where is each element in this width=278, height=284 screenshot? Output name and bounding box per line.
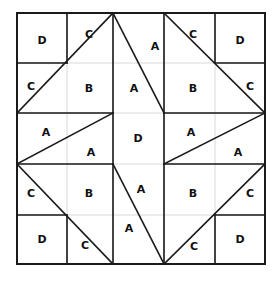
patch-label: B [189,83,197,94]
patch-label: A [137,184,146,195]
patch-label: A [187,127,196,138]
patch-label: B [85,83,93,94]
patch-label: A [130,83,139,94]
patch-label: C [27,81,35,92]
patch-label: A [234,147,243,158]
patch-label: A [125,223,134,234]
patch-label: C [81,240,89,251]
patch-label: D [37,234,46,245]
patch-label: C [189,29,197,40]
patch-label: C [246,81,254,92]
patch-label: C [27,188,35,199]
patch-label: D [235,234,244,245]
patch-label: C [190,241,198,252]
patch-label: B [85,188,93,199]
patch-label: C [85,29,93,40]
patch-label: C [246,188,254,199]
patch-label: B [189,188,197,199]
patch-label: D [235,35,244,46]
patch-label: A [42,127,51,138]
patch-label: A [87,147,96,158]
patch-label: D [37,35,46,46]
quilt-pattern-figure: DCACDCBABCAADAACBABCDCACD [0,0,278,284]
patch-label: A [151,41,160,52]
patch-label: D [133,133,142,144]
